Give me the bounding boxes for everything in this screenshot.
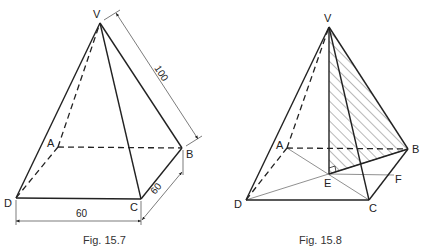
dimension-label-60-bottom: 60	[76, 208, 88, 219]
vertex-label-a: A	[47, 137, 55, 149]
visible-edges	[16, 23, 182, 199]
point-label-f: F	[395, 173, 402, 185]
figure-15-8: V A B C D E F Fig. 15.8	[234, 12, 419, 246]
hatched-triangle-veb	[329, 27, 408, 174]
vertex-label-b: B	[186, 148, 193, 160]
vertex-label-c: C	[369, 202, 377, 214]
vertex-label-b: B	[412, 143, 419, 155]
dimension-60-side	[142, 150, 183, 220]
figure-caption: Fig. 15.7	[83, 234, 126, 246]
dimension-label-100: 100	[152, 63, 171, 83]
figure-15-7: 100 60 60 V A B C D Fig. 15.7	[4, 8, 202, 246]
vertex-label-c: C	[130, 201, 138, 213]
figure-caption: Fig. 15.8	[299, 234, 342, 246]
vertex-label-v: V	[324, 12, 332, 24]
vertex-label-v: V	[93, 8, 101, 20]
vertex-label-d: D	[234, 198, 242, 210]
vertex-label-a: A	[276, 139, 284, 151]
dimension-label-60-side: 60	[148, 180, 164, 196]
diagram-canvas: 100 60 60 V A B C D Fig. 15.7	[0, 0, 425, 248]
vertex-label-d: D	[4, 197, 12, 209]
point-label-e: E	[324, 177, 331, 189]
dimension-100	[104, 10, 202, 146]
